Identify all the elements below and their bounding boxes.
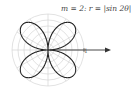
polar-plot: [0, 0, 131, 91]
tick-label-one: 1: [84, 47, 88, 54]
plot-title: m = 2: r = |sin 2θ|: [61, 4, 131, 13]
